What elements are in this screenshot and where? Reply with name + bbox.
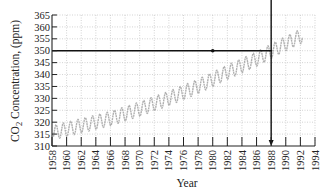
y-tick-label: 365 [34,10,50,21]
x-tick-label: 1972 [149,150,160,171]
marker-point [211,49,215,53]
x-tick-label: 1990 [280,150,291,171]
x-tick-label: 1974 [163,149,174,171]
y-tick-label: 350 [34,45,50,56]
x-tick-label: 1970 [134,150,145,171]
x-tick-label: 1982 [222,150,233,171]
y-tick-label: 325 [34,105,50,116]
x-tick-label: 1962 [76,150,87,171]
y-tick-label: 340 [34,69,50,80]
y-axis-title-main: CO [9,126,21,142]
y-tick-label: 345 [34,57,50,68]
y-tick-label: 360 [34,22,50,33]
x-tick-label: 1980 [207,150,218,171]
x-tick-label: 1984 [237,149,248,171]
y-axis-title: CO2 Concentration, (ppm) [9,20,24,142]
x-tick-label: 1976 [178,150,189,171]
x-tick-label: 1988 [266,150,277,171]
y-tick-label: 330 [34,93,50,104]
y-tick-label: 310 [34,141,50,152]
x-tick-label: 1986 [251,150,262,171]
y-tick-label: 335 [34,81,50,92]
y-axis-ticks: 310315320325330335340345350355360365 [34,10,57,152]
x-tick-label: 1978 [193,150,204,171]
y-axis-title-rest: Concentration, (ppm) [9,20,22,122]
x-tick-label: 1992 [295,150,306,171]
annotation-lines [52,0,274,146]
y-tick-label: 315 [34,129,50,140]
x-tick-label: 1960 [61,150,72,171]
y-tick-label: 320 [34,117,50,128]
y-tick-label: 355 [34,33,50,44]
co2-chart: 310315320325330335340345350355360365 195… [0,0,333,194]
x-tick-label: 1994 [310,149,321,171]
x-axis-title: Year [176,177,197,189]
grid-lines [52,15,315,146]
x-tick-label: 1958 [47,150,58,171]
x-axis-ticks: 1958196019621964196619681970197219741976… [47,137,321,171]
x-tick-label: 1966 [105,150,116,171]
x-tick-label: 1964 [90,149,101,171]
x-tick-label: 1968 [120,150,131,171]
